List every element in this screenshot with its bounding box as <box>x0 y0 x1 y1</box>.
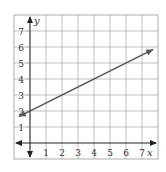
y-tick-label: 6 <box>18 43 24 53</box>
series-line <box>19 49 153 116</box>
coordinate-plane-chart: 12345671234567 x y <box>0 0 166 172</box>
plot-frame <box>14 15 158 159</box>
y-tick-label: 1 <box>18 123 24 133</box>
y-tick-label: 4 <box>18 75 24 85</box>
x-axis-arrow-left-icon <box>15 140 22 146</box>
y-tick-label: 7 <box>18 27 24 37</box>
x-tick-label: 2 <box>59 148 65 158</box>
x-tick-label: 6 <box>123 148 129 158</box>
x-axis-arrow-right-icon <box>150 140 157 146</box>
series-layer <box>19 49 153 116</box>
grid <box>14 15 158 159</box>
x-tick-label: 3 <box>75 148 81 158</box>
axes <box>15 16 157 158</box>
y-axis-arrow-up-icon <box>27 16 33 23</box>
x-tick-label: 5 <box>107 148 113 158</box>
x-axis-label: x <box>147 147 153 158</box>
x-tick-label: 7 <box>139 148 145 158</box>
y-tick-label: 5 <box>18 59 24 69</box>
x-tick-label: 4 <box>91 148 97 158</box>
y-axis-label: y <box>33 15 40 26</box>
x-tick-label: 1 <box>43 148 49 158</box>
y-tick-label: 3 <box>18 91 24 101</box>
y-axis-arrow-down-icon <box>27 151 33 158</box>
